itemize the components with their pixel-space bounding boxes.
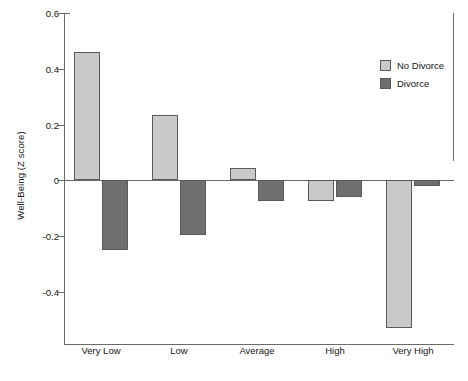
legend-label: Divorce xyxy=(397,79,429,89)
bar xyxy=(308,180,334,201)
y-tick-label: -0.2 xyxy=(43,231,59,242)
legend-item: No Divorce xyxy=(380,60,444,71)
y-tick-label: 0.2 xyxy=(46,119,59,130)
bar xyxy=(74,52,100,180)
legend-swatch xyxy=(380,60,391,71)
bar xyxy=(180,180,206,234)
y-tick-label: 0.4 xyxy=(46,63,59,74)
bar xyxy=(414,180,440,186)
y-axis-spine xyxy=(64,13,65,345)
y-axis-top-cap xyxy=(64,13,70,14)
x-tick-label: Low xyxy=(170,345,187,356)
legend-label: No Divorce xyxy=(397,61,444,71)
x-tick-label: Very High xyxy=(392,345,433,356)
x-tick-label: Very Low xyxy=(81,345,120,356)
bar xyxy=(230,168,256,181)
bar xyxy=(102,180,128,250)
plot-right-cap xyxy=(453,13,454,161)
y-tick-label: 0.6 xyxy=(46,8,59,19)
x-tick-label: Average xyxy=(239,345,274,356)
y-tick-label: -0.4 xyxy=(43,286,59,297)
legend-item: Divorce xyxy=(380,78,444,89)
y-axis-title: Well-Being (Z score) xyxy=(15,106,26,246)
bar xyxy=(336,180,362,197)
chart-figure: Well-Being (Z score) 0.60.40.20-0.2-0.4 … xyxy=(0,0,468,381)
chart-legend: No DivorceDivorce xyxy=(380,60,444,96)
y-tick-label: 0 xyxy=(54,175,59,186)
bar xyxy=(152,115,178,181)
bar xyxy=(258,180,284,201)
legend-swatch xyxy=(380,78,391,89)
bar xyxy=(386,180,412,328)
x-tick-label: High xyxy=(325,345,345,356)
